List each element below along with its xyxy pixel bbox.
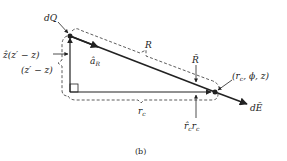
label-dQ: dQ bbox=[44, 13, 58, 23]
label-dE: dĒ bbox=[250, 102, 263, 113]
label-R-bar: R̄ bbox=[191, 54, 199, 65]
right-angle-marker bbox=[70, 84, 78, 92]
label-field-point: (rc, ϕ, z) bbox=[232, 71, 270, 82]
label-R: R bbox=[144, 40, 152, 50]
label-z-vector: ẑ(z′ − z) bbox=[2, 50, 40, 60]
source-point-dQ bbox=[68, 34, 73, 39]
figure-caption: (b) bbox=[135, 147, 146, 156]
field-vector-dE bbox=[215, 92, 247, 104]
label-rc-vector: r̂crc bbox=[184, 121, 200, 132]
observer-point bbox=[213, 90, 218, 95]
label-rc: rc bbox=[138, 106, 146, 117]
brace-rc bbox=[68, 94, 218, 103]
field-point-pointer bbox=[218, 80, 232, 90]
brace-z bbox=[58, 36, 68, 96]
figure-diagram: dQ ẑ(z′ − z) (z′ − z) âR R R̄ (rc, ϕ, z)… bbox=[0, 0, 287, 161]
label-aR: âR bbox=[90, 56, 100, 67]
label-z-distance: (z′ − z) bbox=[21, 65, 53, 75]
dQ-pointer bbox=[58, 22, 68, 33]
